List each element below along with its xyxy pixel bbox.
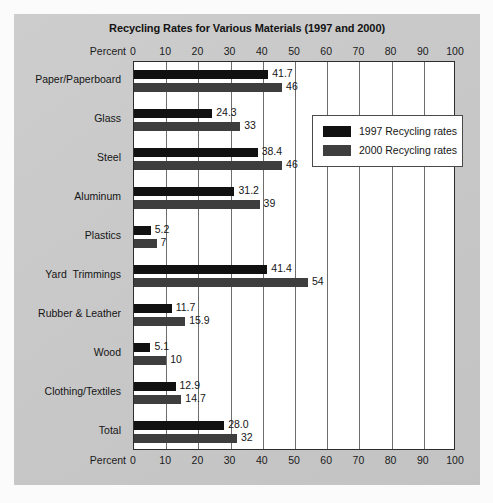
- bar-1997: [134, 70, 268, 79]
- bar-2000: [134, 434, 237, 443]
- chart-title: Recycling Rates for Various Materials (1…: [14, 22, 480, 34]
- bar-2000: [134, 239, 157, 248]
- bar-value-label: 41.4: [271, 264, 291, 273]
- bar-1997: [134, 148, 258, 157]
- bar-value-label: 5.1: [154, 342, 169, 351]
- bar-group: 12.914.7: [134, 382, 454, 404]
- x-tick-label: 0: [130, 45, 136, 57]
- bar-value-label: 46: [286, 82, 298, 91]
- bar-2000: [134, 278, 308, 287]
- x-tick-label: 30: [224, 45, 236, 57]
- bar-value-label: 5.2: [155, 225, 170, 234]
- x-tick-label: 60: [320, 45, 332, 57]
- x-tick-label: 70: [353, 454, 365, 466]
- bar-1997: [134, 343, 150, 352]
- bar-value-label: 7: [161, 238, 167, 247]
- bar-group: 41.746: [134, 70, 454, 92]
- axis-label-percent-top: Percent: [56, 45, 126, 57]
- bar-group: 31.239: [134, 187, 454, 209]
- bar-2000: [134, 317, 185, 326]
- x-tick-label: 80: [385, 45, 397, 57]
- bar-value-label: 33: [244, 121, 256, 130]
- x-tick-label: 20: [192, 454, 204, 466]
- bar-value-label: 54: [312, 277, 324, 286]
- bar-value-label: 15.9: [189, 316, 209, 325]
- x-tick-label: 80: [385, 454, 397, 466]
- x-tick-label: 50: [288, 45, 300, 57]
- chart-legend: 1997 Recycling rates 2000 Recycling rate…: [312, 115, 463, 167]
- bar-value-label: 39: [264, 199, 276, 208]
- x-tick-label: 20: [192, 45, 204, 57]
- bar-1997: [134, 304, 172, 313]
- x-axis-ticks-top: 0102030405060708090100: [133, 45, 455, 59]
- bar-value-label: 12.9: [180, 381, 200, 390]
- x-tick-label: 90: [417, 454, 429, 466]
- bar-group: 41.454: [134, 265, 454, 287]
- x-tick-label: 10: [159, 45, 171, 57]
- bar-value-label: 31.2: [238, 186, 258, 195]
- bar-value-label: 24.3: [216, 108, 236, 117]
- bar-group: 28.032: [134, 421, 454, 443]
- legend-label-2000: 2000 Recycling rates: [359, 143, 457, 157]
- category-label: Plastics: [85, 229, 121, 241]
- category-label: Paper/Paperboard: [35, 73, 121, 85]
- x-tick-label: 30: [224, 454, 236, 466]
- bar-2000: [134, 200, 260, 209]
- category-axis-labels: Paper/PaperboardGlassSteelAluminumPlasti…: [14, 61, 127, 450]
- category-label: Yard Trimmings: [45, 268, 121, 280]
- bar-value-label: 32: [241, 433, 253, 442]
- bar-value-label: 38.4: [262, 147, 282, 156]
- bar-1997: [134, 265, 267, 274]
- category-label: Glass: [94, 112, 121, 124]
- bar-1997: [134, 187, 234, 196]
- bar-group: 5.27: [134, 226, 454, 248]
- plot-area: 41.74624.33338.44631.2395.2741.45411.715…: [133, 61, 455, 450]
- x-tick-label: 40: [256, 45, 268, 57]
- bar-1997: [134, 109, 212, 118]
- bar-value-label: 46: [286, 160, 298, 169]
- axis-label-percent-bottom: Percent: [56, 454, 126, 466]
- x-tick-label: 10: [159, 454, 171, 466]
- bar-value-label: 11.7: [176, 303, 196, 312]
- category-label: Steel: [97, 151, 121, 163]
- x-tick-label: 90: [417, 45, 429, 57]
- bar-2000: [134, 122, 240, 131]
- chart-panel: Recycling Rates for Various Materials (1…: [14, 14, 480, 485]
- x-tick-label: 100: [446, 45, 464, 57]
- bar-value-label: 10: [170, 355, 182, 364]
- x-tick-label: 40: [256, 454, 268, 466]
- bar-value-label: 28.0: [228, 420, 248, 429]
- legend-swatch-2000-icon: [323, 145, 351, 156]
- category-label: Wood: [94, 346, 121, 358]
- bar-value-label: 14.7: [185, 394, 205, 403]
- x-tick-label: 100: [446, 454, 464, 466]
- bar-value-label: 41.7: [272, 69, 292, 78]
- bar-2000: [134, 161, 282, 170]
- x-tick-label: 50: [288, 454, 300, 466]
- x-tick-label: 0: [130, 454, 136, 466]
- bar-group: 5.110: [134, 343, 454, 365]
- x-tick-label: 70: [353, 45, 365, 57]
- x-tick-label: 60: [320, 454, 332, 466]
- bar-1997: [134, 382, 176, 391]
- legend-label-1997: 1997 Recycling rates: [359, 124, 457, 138]
- bar-1997: [134, 421, 224, 430]
- legend-swatch-1997-icon: [323, 126, 351, 137]
- bar-group: 11.715.9: [134, 304, 454, 326]
- category-label: Aluminum: [74, 190, 121, 202]
- bar-1997: [134, 226, 151, 235]
- category-label: Total: [99, 424, 121, 436]
- bar-2000: [134, 395, 181, 404]
- bar-2000: [134, 83, 282, 92]
- category-label: Rubber & Leather: [38, 307, 121, 319]
- x-axis-ticks-bottom: 0102030405060708090100: [133, 454, 455, 468]
- bar-2000: [134, 356, 166, 365]
- chart-figure: Recycling Rates for Various Materials (1…: [0, 0, 493, 503]
- category-label: Clothing/Textiles: [45, 385, 121, 397]
